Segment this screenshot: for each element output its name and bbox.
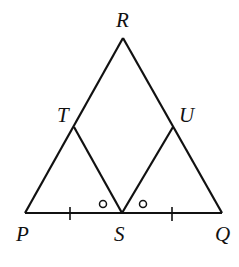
label-S: S (114, 222, 125, 246)
label-Q: Q (215, 222, 230, 246)
label-U: U (179, 103, 196, 127)
segment-TS (74, 127, 122, 213)
geometry-diagram: R T U P S Q (0, 0, 239, 267)
segment-SU (122, 127, 173, 213)
angle-mark-USQ (140, 201, 147, 208)
label-T: T (57, 103, 70, 127)
label-P: P (15, 222, 29, 246)
label-R: R (115, 8, 129, 32)
angle-mark-TSP (100, 201, 107, 208)
